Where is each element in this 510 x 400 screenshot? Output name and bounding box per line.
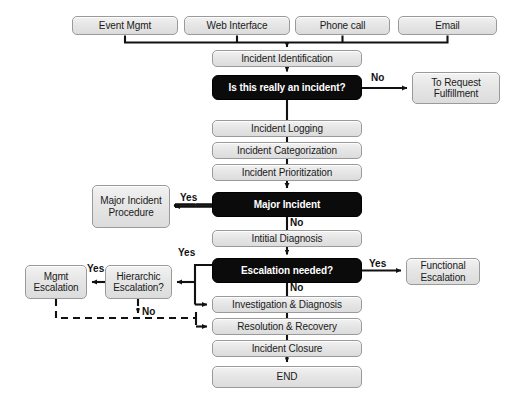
node-label: Escalation needed? [241,265,333,277]
node-label: Functional Escalation [410,260,476,283]
edge-label-no-major-incident: No [290,217,303,228]
node-intitial-diagnosis[interactable]: Intitial Diagnosis [212,230,362,247]
node-label: Resolution & Recovery [237,321,337,333]
edge-label-no-hierarchic: No [142,306,155,317]
node-label: Incident Logging [251,123,323,135]
node-label: Major Incident Procedure [96,195,166,218]
node-label: Hierarchic Escalation? [109,271,168,294]
node-label: Incident Identification [241,53,333,65]
node-event-mgmt[interactable]: Event Mgmt [72,16,178,35]
edge-label-yes-major-incident: Yes [180,192,197,203]
flowchart-canvas: Event Mgmt Web Interface Phone call Emai… [0,0,510,400]
node-phone-call[interactable]: Phone call [295,16,390,35]
node-label: Phone call [320,20,366,32]
node-label: Mgmt Escalation [29,271,83,294]
node-major-incident-procedure[interactable]: Major Incident Procedure [92,185,170,228]
node-label: Incident Categorization [237,145,337,157]
node-major-incident[interactable]: Major Incident [212,192,362,217]
node-hierarchic-escalation[interactable]: Hierarchic Escalation? [105,265,172,299]
node-label: Incident Closure [252,343,323,355]
node-to-request-fulfillment[interactable]: To Request Fulfillment [412,72,500,104]
node-label: Email [435,20,460,32]
edge-label-yes-escalation-right: Yes [369,258,386,269]
node-label: Major Incident [254,199,320,211]
node-end[interactable]: END [212,366,362,388]
node-escalation-needed[interactable]: Escalation needed? [212,258,362,283]
node-label: Investigation & Diagnosis [232,299,342,311]
edge-label-no-not-incident: No [371,72,384,83]
node-web-interface[interactable]: Web Interface [184,16,290,35]
node-incident-logging[interactable]: Incident Logging [212,120,362,137]
node-label: Is this really an incident? [229,82,346,94]
node-label: Web Interface [207,20,268,32]
node-incident-closure[interactable]: Incident Closure [212,340,362,357]
node-functional-escalation[interactable]: Functional Escalation [406,258,480,285]
node-email[interactable]: Email [398,16,497,35]
node-is-this-really-an-incident[interactable]: Is this really an incident? [212,75,362,100]
node-mgmt-escalation[interactable]: Mgmt Escalation [25,265,87,299]
node-label: END [277,371,298,383]
edge-label-yes-escalation-left: Yes [178,247,195,258]
node-incident-categorization[interactable]: Incident Categorization [212,142,362,159]
node-label: Intitial Diagnosis [251,233,322,245]
node-label: Event Mgmt [99,20,151,32]
node-label: To Request Fulfillment [416,77,496,100]
node-incident-identification[interactable]: Incident Identification [212,50,362,67]
node-incident-prioritization[interactable]: Incident Prioritization [212,164,362,181]
node-investigation-diagnosis[interactable]: Investigation & Diagnosis [212,296,362,313]
node-label: Incident Prioritization [242,167,333,179]
edge-label-yes-hierarchic: Yes [87,263,104,274]
node-resolution-recovery[interactable]: Resolution & Recovery [212,318,362,335]
edge-label-no-escalation: No [290,282,303,293]
